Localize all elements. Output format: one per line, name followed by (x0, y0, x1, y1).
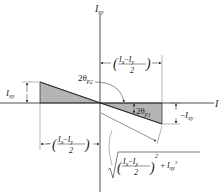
svg-text:): ) (84, 137, 90, 153)
angle-upper-label: 2θp2 (78, 73, 93, 85)
left-height-label: Ixy (5, 88, 15, 99)
angle-upper-arc (95, 82, 124, 102)
svg-text:): ) (145, 56, 151, 72)
bottom-dimension-label: − ( Ix−Iy 2 ) (46, 135, 90, 155)
svg-text:2: 2 (69, 146, 73, 155)
svg-text:Ix−Iy: Ix−Iy (57, 135, 74, 145)
radius-ext-end (157, 126, 162, 144)
radius-leader (109, 130, 112, 165)
svg-text:Ix−Iy: Ix−Iy (118, 55, 135, 65)
svg-text:Ix−Iy: Ix−Iy (122, 157, 139, 167)
horizontal-axis-label: I (214, 98, 219, 109)
radius-label: ( Ix−Iy 2 ) 2 + Ixy2 (108, 152, 200, 178)
svg-text:+: + (160, 161, 165, 170)
top-dimension-label: ( Ix−Iy 2 ) (113, 55, 151, 75)
svg-text:Ixy2: Ixy2 (166, 160, 178, 171)
mohr-diagram: Ixy I ( Ix−Iy 2 ) − ( Ix−Iy 2 ) Ixy −Ixy… (0, 0, 224, 192)
right-height-label: −Ixy (180, 110, 194, 121)
svg-text:2: 2 (130, 66, 134, 75)
svg-text:2: 2 (134, 168, 138, 177)
vertical-axis-label: Ixy (94, 3, 104, 15)
svg-text:−: − (46, 139, 51, 148)
svg-text:2: 2 (155, 153, 158, 159)
svg-text:): ) (149, 160, 155, 176)
